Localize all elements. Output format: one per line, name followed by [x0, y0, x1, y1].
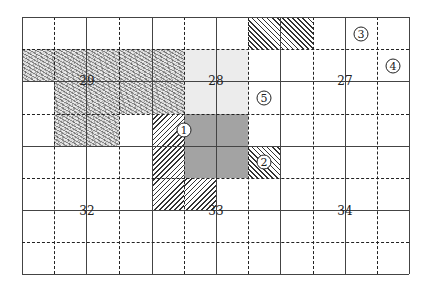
marker-2: 2: [257, 155, 272, 170]
label-32: 32: [78, 205, 95, 217]
marker-3: 3: [354, 27, 369, 42]
grid-hline-dashed: [22, 242, 409, 243]
grid-vline-solid: [409, 17, 410, 274]
marker-4: 4: [386, 59, 401, 74]
grid-hline-solid: [22, 274, 409, 275]
grid-hline-dashed: [22, 114, 409, 115]
grid-hline-solid: [22, 146, 409, 147]
label-29: 29: [78, 75, 95, 87]
marker-1: 1: [177, 123, 192, 138]
stipple-region-29-row1: [22, 49, 184, 81]
label-34: 34: [336, 205, 353, 217]
grid-hline-dashed: [22, 49, 409, 50]
label-28: 28: [207, 75, 224, 87]
grid-hline-dashed: [22, 178, 409, 179]
label-33: 33: [207, 205, 224, 217]
parcel-grid-diagram: 292827323334 12345: [0, 0, 431, 292]
label-27: 27: [336, 75, 353, 87]
grid-hline-solid: [22, 17, 409, 18]
marker-5: 5: [257, 91, 272, 106]
